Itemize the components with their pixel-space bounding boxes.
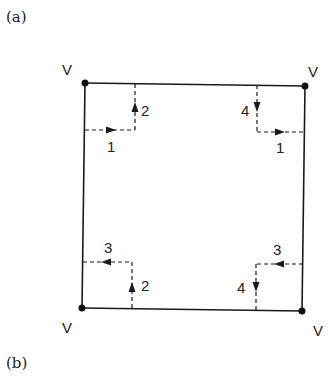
path-label-bl-vertical: 2 — [141, 277, 149, 294]
arrow-right-icon — [275, 129, 285, 136]
square-boundary — [82, 83, 305, 311]
vertex-dots — [79, 80, 309, 315]
path-bottom-left — [83, 262, 132, 308]
path-label-bl-horizontal: 3 — [104, 239, 112, 256]
path-label-tr-vertical: 4 — [241, 102, 249, 119]
path-bottom-right — [256, 264, 303, 310]
vertex-bottom-right — [299, 308, 306, 315]
path-label-br-vertical: 4 — [237, 279, 245, 296]
path-top-right — [257, 85, 304, 132]
vertex-top-left — [82, 80, 89, 87]
arrow-down-icon — [254, 102, 261, 112]
arrow-right-icon — [106, 127, 116, 134]
path-label-tl-vertical: 2 — [141, 102, 149, 119]
arrow-up-icon — [132, 102, 139, 112]
vertex-label-top-left: V — [62, 61, 72, 78]
vertex-label-bottom-right: V — [313, 322, 323, 339]
path-label-tr-horizontal: 1 — [276, 139, 284, 156]
path-top-left — [85, 84, 135, 130]
arrow-up-icon — [129, 282, 136, 292]
square-loop-diagram: V V V V — [0, 0, 329, 384]
vertex-top-right — [302, 83, 309, 90]
arrow-left-icon — [101, 259, 111, 266]
path-label-tl-horizontal: 1 — [107, 138, 115, 155]
path-label-br-horizontal: 3 — [273, 241, 281, 258]
arrow-down-icon — [253, 282, 260, 292]
vertex-label-top-right: V — [308, 63, 318, 80]
vertex-label-bottom-left: V — [62, 319, 72, 336]
vertex-bottom-left — [79, 305, 86, 312]
arrow-left-icon — [274, 261, 284, 268]
